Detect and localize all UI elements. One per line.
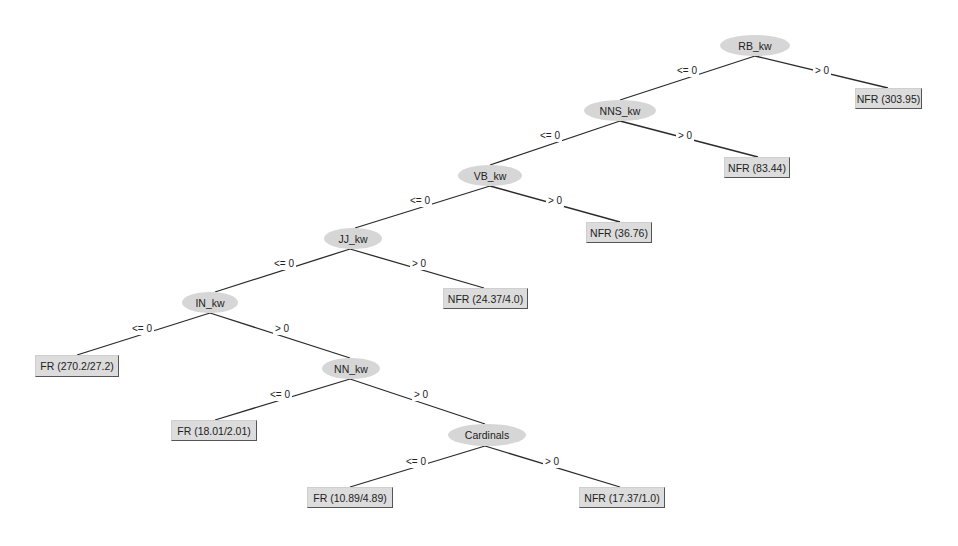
node-vb-kw[interactable]: VB_kw <box>458 165 522 186</box>
edge-label-card-le: <= 0 <box>404 456 428 468</box>
leaf-nfr-17-37[interactable]: NFR (17.37/1.0) <box>579 487 665 508</box>
edge-label-nns-le: <= 0 <box>538 130 562 142</box>
leaf-fr-10-89[interactable]: FR (10.89/4.89) <box>307 487 393 508</box>
edge-label-rb-gt: > 0 <box>813 65 831 77</box>
leaf-fr-18-01[interactable]: FR (18.01/2.01) <box>171 420 257 441</box>
edge-nn-gt <box>350 379 485 424</box>
edge-label-nn-gt: > 0 <box>412 389 430 401</box>
node-nns-kw[interactable]: NNS_kw <box>584 100 656 121</box>
node-rb-kw[interactable]: RB_kw <box>720 35 790 56</box>
edge-rb-le <box>620 56 755 100</box>
edge-jj-le <box>215 249 350 292</box>
edge-in-gt <box>210 313 350 358</box>
edge-label-rb-le: <= 0 <box>675 65 699 77</box>
node-cardinals[interactable]: Cardinals <box>448 424 526 446</box>
edge-nns-le <box>490 121 620 165</box>
node-nn-kw[interactable]: NN_kw <box>322 358 380 379</box>
leaf-nfr-83-44[interactable]: NFR (83.44) <box>724 157 790 178</box>
edge-label-nn-le: <= 0 <box>268 389 292 401</box>
leaf-nfr-303-95[interactable]: NFR (303.95) <box>855 88 922 109</box>
edge-label-nns-gt: > 0 <box>676 130 694 142</box>
leaf-fr-270-2[interactable]: FR (270.2/27.2) <box>35 355 119 377</box>
edge-label-jj-gt: > 0 <box>410 258 428 270</box>
edge-label-in-gt: > 0 <box>273 323 291 335</box>
edge-label-jj-le: <= 0 <box>272 258 296 270</box>
edge-label-card-gt: > 0 <box>543 456 561 468</box>
node-jj-kw[interactable]: JJ_kw <box>324 228 382 249</box>
leaf-nfr-24-37[interactable]: NFR (24.37/4.0) <box>443 288 528 309</box>
edge-vb-le <box>355 186 490 228</box>
node-in-kw[interactable]: IN_kw <box>182 292 238 313</box>
leaf-nfr-36-76[interactable]: NFR (36.76) <box>586 222 652 243</box>
tree-edges <box>0 0 958 546</box>
edge-label-vb-gt: > 0 <box>546 195 564 207</box>
edge-label-in-le: <= 0 <box>130 323 154 335</box>
edge-label-vb-le: <= 0 <box>408 195 432 207</box>
